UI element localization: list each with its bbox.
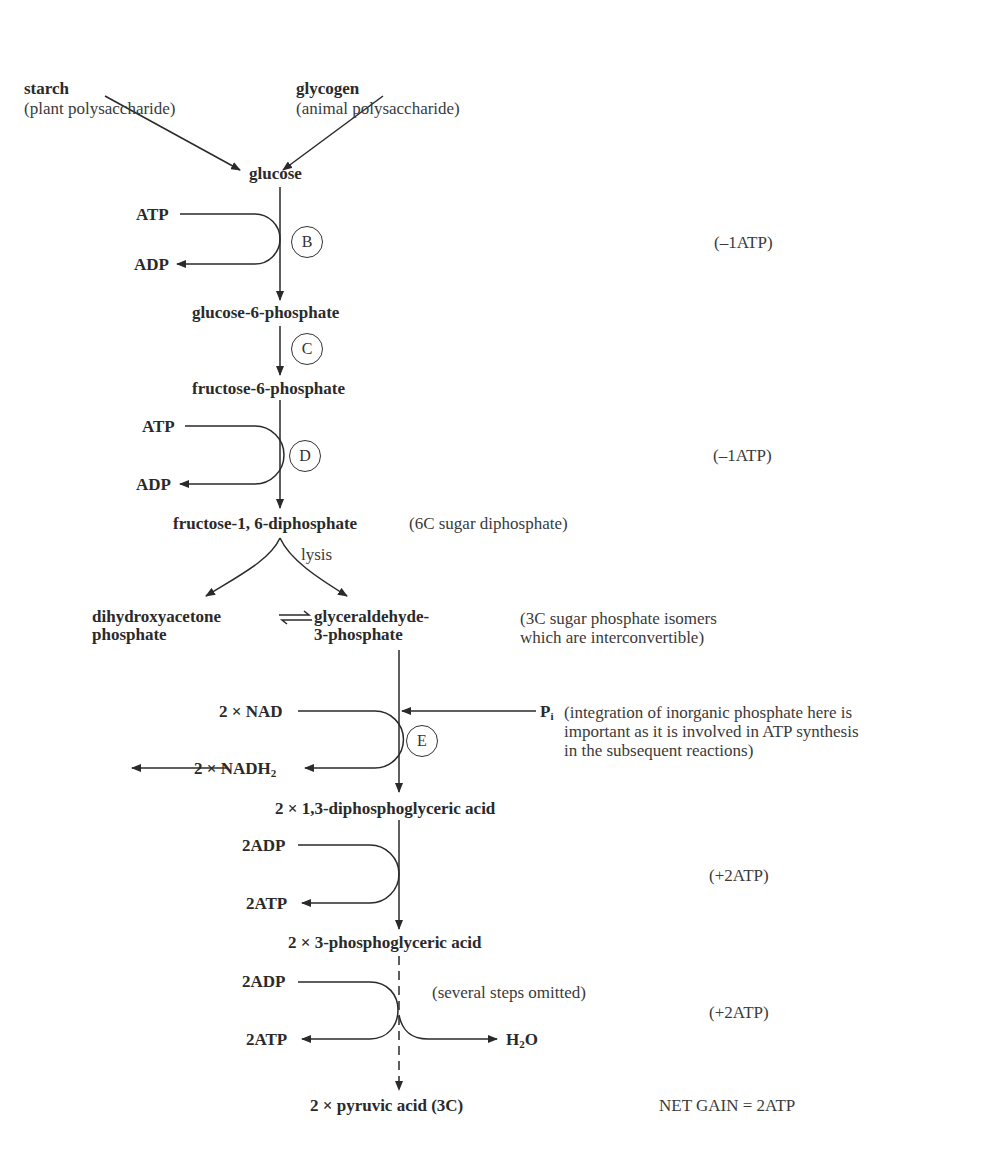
steps-omitted-note: (several steps omitted) xyxy=(432,984,586,1002)
isomers-note-line2: which are interconvertible) xyxy=(520,629,704,647)
enzyme-c-badge: C xyxy=(291,333,323,365)
step-b-adp-out: ADP xyxy=(134,256,169,274)
atp-balance-g: (+2ATP) xyxy=(709,1004,769,1022)
dhap-label-line2: phosphate xyxy=(92,626,167,644)
step-d-adp-out: ADP xyxy=(136,476,171,494)
pi-note-line3: in the subsequent reactions) xyxy=(564,741,753,760)
atp-balance-f: (+2ATP) xyxy=(709,867,769,885)
isomers-note-line1: (3C sugar phosphate isomers xyxy=(520,610,717,628)
glycogen-label: glycogen xyxy=(296,80,359,98)
inorganic-phosphate-label: Pi xyxy=(540,703,553,721)
step-b-atp-in: ATP xyxy=(136,206,169,224)
enzyme-b-badge: B xyxy=(291,226,323,258)
step-e-nad-in: 2 × NAD xyxy=(219,703,283,721)
pi-note-line1: (integration of inorganic phosphate here… xyxy=(564,703,852,722)
step-d-atp-in: ATP xyxy=(142,418,175,436)
3pg-label: 2 × 3-phosphoglyceric acid xyxy=(288,934,481,952)
step-f-adp-in: 2ADP xyxy=(242,837,285,855)
glucose-label: glucose xyxy=(249,165,302,183)
g3p-label-line2: 3-phosphate xyxy=(314,626,403,644)
f6p-label: fructose-6-phosphate xyxy=(192,380,345,398)
f16dp-note: (6C sugar diphosphate) xyxy=(409,515,568,533)
enzyme-d-badge: D xyxy=(289,440,321,472)
starch-label: starch xyxy=(24,80,69,98)
glycogen-note: (animal polysaccharide) xyxy=(296,100,460,118)
lysis-label: lysis xyxy=(301,546,332,564)
f16dp-label: fructose-1, 6-diphosphate xyxy=(173,515,357,533)
pyruvate-label: 2 × pyruvic acid (3C) xyxy=(310,1097,463,1115)
atp-balance-d: (–1ATP) xyxy=(713,447,772,465)
starch-note: (plant polysaccharide) xyxy=(24,100,176,118)
dpg-label: 2 × 1,3-diphosphoglyceric acid xyxy=(275,800,495,818)
enzyme-e-badge: E xyxy=(406,725,438,757)
water-label: H2O xyxy=(506,1031,538,1049)
step-f-atp-out: 2ATP xyxy=(246,895,287,913)
g3p-label-line1: glyceraldehyde- xyxy=(314,608,429,626)
pi-note-line2: important as it is involved in ATP synth… xyxy=(564,722,859,741)
dhap-label-line1: dihydroxyacetone xyxy=(92,608,221,626)
step-g-adp-in: 2ADP xyxy=(242,973,285,991)
step-g-atp-out: 2ATP xyxy=(246,1031,287,1049)
g6p-label: glucose-6-phosphate xyxy=(192,304,339,322)
step-e-nadh2-out: 2 × NADH2 xyxy=(194,760,276,778)
net-gain-label: NET GAIN = 2ATP xyxy=(659,1097,795,1115)
atp-balance-b: (–1ATP) xyxy=(714,234,773,252)
